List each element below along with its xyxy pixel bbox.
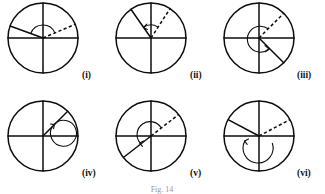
figure-sheet: (i) (ii) (iii) [0,0,325,194]
dashed-ray-upper-right-ii [151,9,170,38]
figure-caption: Fig. 14 [151,185,174,194]
solid-ray-lower-left-v [123,136,151,158]
panel-label-vi: (vi) [297,168,311,179]
panel-iii: (iii) [224,3,311,81]
panel-v: (v) [116,101,201,179]
geometry-figure-svg: (i) (ii) (iii) [0,0,325,194]
arc-arrowhead-vi [245,139,249,144]
dashed-ray-upper-right-vi [259,120,290,136]
panel-vi: (vi) [224,101,311,179]
solid-ray-upper-left-vi [228,120,259,136]
solid-ray-lower-right-iii [259,38,284,63]
panel-ii: (ii) [116,3,202,81]
solid-ray-upper-left-i [10,26,43,38]
panel-label-v: (v) [190,168,201,179]
angle-arc-v [137,122,161,143]
panel-label-i: (i) [82,70,91,81]
panel-label-ii: (ii) [190,70,202,81]
panel-i: (i) [8,3,91,81]
panel-label-iv: (iv) [82,168,96,179]
dashed-ray-upper-right-i [43,24,75,38]
panel-iv: (iv) [8,101,96,179]
panel-label-iii: (iii) [297,70,311,81]
angle-arc-iii [247,26,269,52]
dashed-ray-upper-right-iii [259,13,284,38]
solid-ray-upper-left-ii [131,9,151,38]
dashed-ray-upper-right-v [151,115,179,137]
